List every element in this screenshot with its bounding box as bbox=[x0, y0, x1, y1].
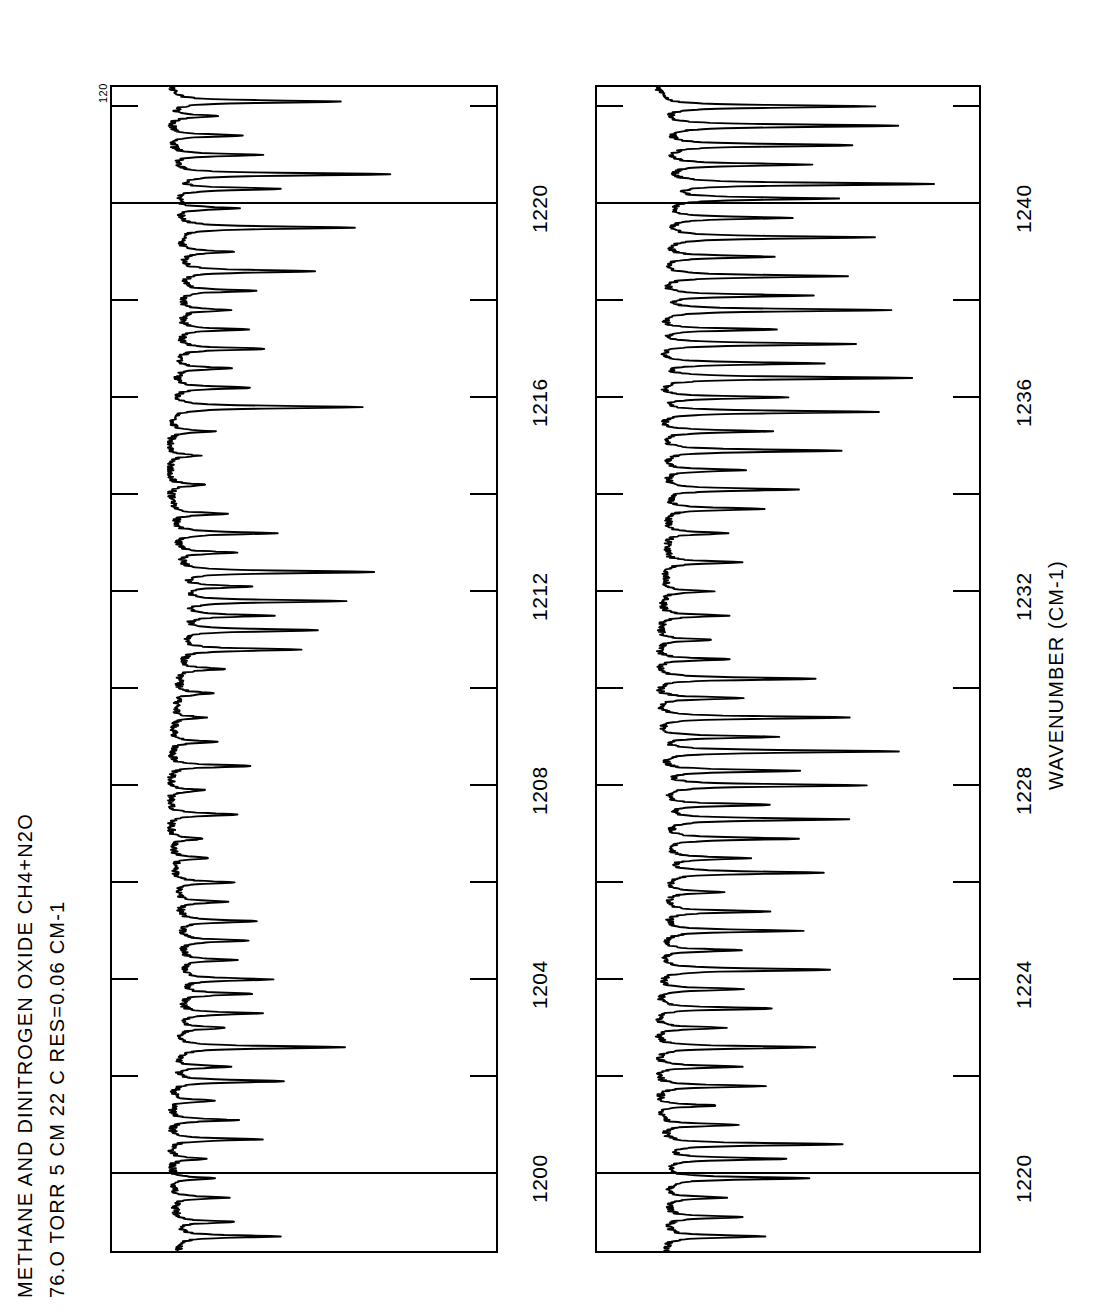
tick-right-1228 bbox=[953, 784, 979, 786]
tick-right-1224 bbox=[953, 978, 979, 980]
tick-right-1230 bbox=[953, 687, 979, 689]
tick-left-1232 bbox=[597, 590, 623, 592]
x-tick-label-1208: 1208 bbox=[528, 767, 552, 816]
tick-right-1202 bbox=[470, 1075, 496, 1077]
x-tick-label-1216: 1216 bbox=[528, 379, 552, 428]
y-axis-top-label: 120 bbox=[97, 83, 109, 103]
tick-left-1206 bbox=[112, 881, 138, 883]
spectrum-trace-top bbox=[112, 87, 496, 1251]
tick-right-1204 bbox=[470, 978, 496, 980]
spectrum-path bbox=[168, 87, 390, 1251]
tick-left-1224 bbox=[597, 978, 623, 980]
tick-right-1208 bbox=[470, 784, 496, 786]
spectrum-path bbox=[656, 87, 934, 1251]
tick-left-1222 bbox=[112, 105, 138, 107]
chart-title-line-1: METHANE AND DINITROGEN OXIDE CH4+N2O bbox=[14, 813, 37, 1298]
x-tick-label-1204: 1204 bbox=[528, 961, 552, 1010]
tick-left-1208 bbox=[112, 784, 138, 786]
tick-right-1226 bbox=[953, 881, 979, 883]
tick-left-1222 bbox=[597, 1075, 623, 1077]
x-tick-label-1224: 1224 bbox=[1012, 961, 1036, 1010]
tick-left-1238 bbox=[597, 299, 623, 301]
x-tick-label-1200: 1200 bbox=[528, 1155, 552, 1204]
tick-right-1222 bbox=[470, 105, 496, 107]
chart-subtitle-line-2: 76.O TORR 5 CM 22 C RES=0.06 CM-1 bbox=[46, 901, 69, 1298]
x-tick-label-1228: 1228 bbox=[1012, 767, 1036, 816]
tick-left-1226 bbox=[597, 881, 623, 883]
plot-area-bottom bbox=[597, 87, 979, 1251]
x-tick-label-1220: 1220 bbox=[528, 185, 552, 234]
x-tick-label-1240: 1240 bbox=[1012, 185, 1036, 234]
tick-right-1242 bbox=[953, 105, 979, 107]
tick-left-1234 bbox=[597, 493, 623, 495]
tick-right-1238 bbox=[953, 299, 979, 301]
gridline-1220 bbox=[112, 202, 496, 204]
tick-right-1212 bbox=[470, 590, 496, 592]
tick-left-1228 bbox=[597, 784, 623, 786]
x-axis-title: WAVENUMBER (CM-1) bbox=[1045, 560, 1068, 790]
tick-left-1214 bbox=[112, 493, 138, 495]
tick-left-1204 bbox=[112, 978, 138, 980]
gridline-1240 bbox=[597, 202, 979, 204]
x-tick-label-1220: 1220 bbox=[1012, 1155, 1036, 1204]
tick-right-1234 bbox=[953, 493, 979, 495]
tick-right-1222 bbox=[953, 1075, 979, 1077]
tick-right-1232 bbox=[953, 590, 979, 592]
gridline-1200 bbox=[112, 1172, 496, 1174]
spectrum-trace-bottom bbox=[597, 87, 979, 1251]
x-tick-label-1232: 1232 bbox=[1012, 573, 1036, 622]
spectrum-panel-bottom bbox=[595, 85, 981, 1253]
tick-left-1218 bbox=[112, 299, 138, 301]
x-tick-label-1212: 1212 bbox=[528, 573, 552, 622]
tick-right-1210 bbox=[470, 687, 496, 689]
tick-right-1236 bbox=[953, 396, 979, 398]
spectrum-panel-top bbox=[110, 85, 498, 1253]
tick-right-1218 bbox=[470, 299, 496, 301]
tick-left-1242 bbox=[597, 105, 623, 107]
tick-left-1202 bbox=[112, 1075, 138, 1077]
tick-left-1210 bbox=[112, 687, 138, 689]
tick-left-1236 bbox=[597, 396, 623, 398]
plot-area-top bbox=[112, 87, 496, 1251]
tick-right-1206 bbox=[470, 881, 496, 883]
tick-right-1216 bbox=[470, 396, 496, 398]
tick-left-1212 bbox=[112, 590, 138, 592]
tick-left-1216 bbox=[112, 396, 138, 398]
x-tick-label-1236: 1236 bbox=[1012, 379, 1036, 428]
tick-left-1230 bbox=[597, 687, 623, 689]
tick-right-1214 bbox=[470, 493, 496, 495]
gridline-1220 bbox=[597, 1172, 979, 1174]
